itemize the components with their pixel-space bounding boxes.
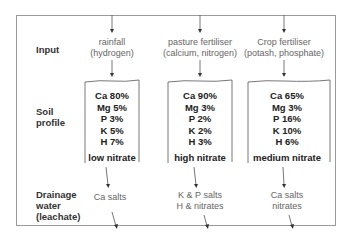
input-line: (potash, phosphate) xyxy=(244,48,324,59)
drainage-label-line: Drainage xyxy=(36,189,80,200)
profile-value: P 16% xyxy=(253,113,321,125)
input-line: (calcium, nitrogen) xyxy=(163,48,237,59)
drainage-line: nitrates xyxy=(271,201,304,212)
profile-value: Ca 65% xyxy=(253,90,321,102)
input-line: (hydrogen) xyxy=(90,48,134,59)
drainage-label-line: water xyxy=(36,200,80,211)
row-label-soil-profile: Soil profile xyxy=(36,106,65,128)
input-pasture-fertiliser: pasture fertiliser (calcium, nitrogen) xyxy=(163,37,237,59)
drainage-line: K & P salts xyxy=(176,190,223,201)
input-rainfall: rainfall (hydrogen) xyxy=(90,37,134,59)
nitrate-level: low nitrate xyxy=(88,152,136,164)
profile-value: P 2% xyxy=(174,113,226,125)
profile-value: Mg 5% xyxy=(88,102,136,114)
soil-profile-box-pasture: Ca 90% Mg 3% P 2% K 2% H 3% high nitrate xyxy=(174,90,226,163)
nitrate-level: high nitrate xyxy=(174,152,226,164)
nitrate-level: medium nitrate xyxy=(253,152,321,164)
drainage-line: Ca salts xyxy=(271,190,304,201)
profile-value: Mg 3% xyxy=(174,102,226,114)
soil-profile-box-rainfall: Ca 80% Mg 5% P 3% K 5% H 7% low nitrate xyxy=(88,90,136,163)
soil-profile-box-crop: Ca 65% Mg 3% P 16% K 10% H 6% medium nit… xyxy=(253,90,321,163)
profile-value: H 3% xyxy=(174,136,226,148)
drainage-crop: Ca salts nitrates xyxy=(271,190,304,212)
profile-value: Ca 90% xyxy=(174,90,226,102)
soil-profile-label-line: Soil xyxy=(36,106,65,117)
input-line: Crop fertiliser xyxy=(244,37,324,48)
drainage-label-line: (leachate) xyxy=(36,211,80,222)
input-crop-fertiliser: Crop fertiliser (potash, phosphate) xyxy=(244,37,324,59)
soil-profile-label-line: profile xyxy=(36,117,65,128)
profile-value: Ca 80% xyxy=(88,90,136,102)
profile-value: K 10% xyxy=(253,125,321,137)
row-label-input: Input xyxy=(36,44,59,55)
input-line: pasture fertiliser xyxy=(163,37,237,48)
row-label-drainage: Drainage water (leachate) xyxy=(36,189,80,222)
profile-value: Mg 3% xyxy=(253,102,321,114)
drainage-pasture: K & P salts H & nitrates xyxy=(176,190,223,212)
profile-value: K 2% xyxy=(174,125,226,137)
profile-value: P 3% xyxy=(88,113,136,125)
profile-value: H 6% xyxy=(253,136,321,148)
drainage-rainfall: Ca salts xyxy=(94,192,127,203)
drainage-line: Ca salts xyxy=(94,192,127,203)
profile-value: K 5% xyxy=(88,125,136,137)
input-line: rainfall xyxy=(90,37,134,48)
drainage-line: H & nitrates xyxy=(176,201,223,212)
profile-value: H 7% xyxy=(88,136,136,148)
